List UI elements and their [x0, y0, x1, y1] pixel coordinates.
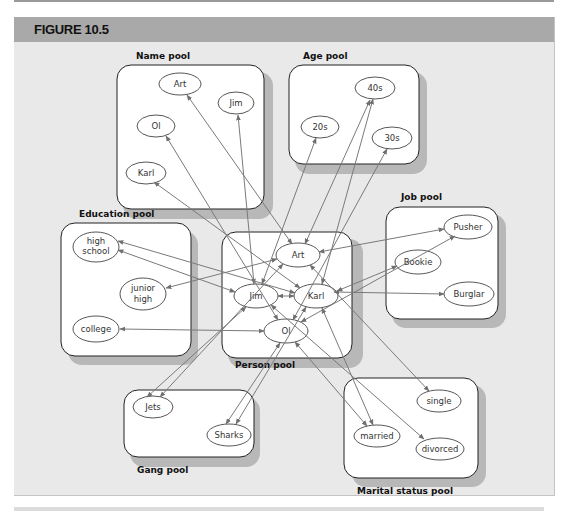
name-pool-label: Name pool	[136, 51, 190, 61]
svg-text:Jim: Jim	[228, 98, 242, 108]
education-pool-label: Education pool	[79, 209, 154, 219]
node-age-30s[interactable]: 30s	[372, 127, 412, 149]
svg-text:high: high	[134, 294, 153, 304]
svg-text:junior: junior	[130, 283, 156, 293]
node-person-jim[interactable]: Jim	[234, 284, 278, 308]
svg-text:Jets: Jets	[144, 402, 161, 412]
svg-text:Karl: Karl	[308, 291, 325, 301]
age-pool: Age pool 40s 20s 30s	[289, 51, 419, 164]
network-diagram: Name pool Art Jim Ol Karl Age pool 40s 2…	[0, 0, 568, 518]
marital-pool-label: Marital status pool	[357, 486, 453, 496]
svg-text:high: high	[87, 236, 106, 246]
node-edu-college[interactable]: college	[73, 316, 119, 342]
node-age-20s[interactable]: 20s	[301, 116, 339, 138]
svg-text:Sharks: Sharks	[215, 430, 244, 440]
svg-text:40s: 40s	[367, 83, 383, 93]
node-age-40s[interactable]: 40s	[355, 77, 395, 99]
caption-text-placeholder	[14, 507, 544, 511]
svg-text:20s: 20s	[312, 122, 328, 132]
node-name-karl[interactable]: Karl	[126, 162, 166, 184]
svg-text:married: married	[360, 431, 393, 441]
job-pool-label: Job pool	[400, 192, 442, 202]
marital-status-pool: Marital status pool single married divor…	[344, 378, 478, 496]
node-name-art[interactable]: Art	[159, 73, 201, 95]
gang-pool-label: Gang pool	[137, 465, 188, 475]
node-marital-married[interactable]: married	[354, 425, 400, 447]
node-edu-junior-high[interactable]: junior high	[120, 278, 166, 310]
svg-text:Karl: Karl	[138, 168, 155, 178]
node-edu-high-school[interactable]: high school	[73, 232, 119, 262]
age-pool-label: Age pool	[303, 51, 348, 61]
job-pool: Job pool Pusher Bookie Burglar	[386, 192, 498, 319]
education-pool: Education pool high school junior high c…	[61, 209, 191, 356]
svg-text:Art: Art	[292, 250, 305, 260]
svg-text:30s: 30s	[384, 133, 400, 143]
svg-text:divorced: divorced	[422, 444, 459, 454]
node-job-bookie[interactable]: Bookie	[395, 250, 441, 274]
node-gang-jets[interactable]: Jets	[133, 396, 173, 418]
node-marital-single[interactable]: single	[417, 390, 461, 412]
svg-text:single: single	[426, 396, 451, 406]
svg-text:Burglar: Burglar	[453, 289, 485, 299]
node-job-pusher[interactable]: Pusher	[444, 215, 492, 239]
node-name-ol[interactable]: Ol	[137, 115, 175, 137]
person-pool: Person pool Art Jim Karl Ol	[222, 232, 352, 370]
node-person-art[interactable]: Art	[276, 243, 320, 267]
node-marital-divorced[interactable]: divorced	[416, 438, 464, 460]
svg-text:Art: Art	[174, 79, 187, 89]
name-pool: Name pool Art Jim Ol Karl	[117, 51, 264, 209]
svg-text:college: college	[81, 324, 111, 334]
node-job-burglar[interactable]: Burglar	[444, 282, 494, 306]
svg-text:school: school	[82, 246, 109, 256]
svg-text:Ol: Ol	[151, 121, 160, 131]
node-gang-sharks[interactable]: Sharks	[207, 424, 251, 446]
node-name-jim[interactable]: Jim	[218, 92, 254, 114]
svg-text:Pusher: Pusher	[454, 222, 483, 232]
